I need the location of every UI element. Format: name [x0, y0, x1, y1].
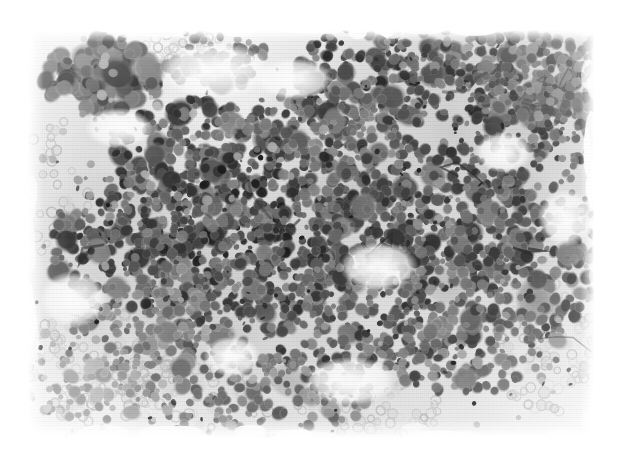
paper-margin-right	[594, 0, 623, 467]
micrograph-viewport: Cytology micrograph Grayscale photomicro…	[0, 0, 623, 467]
paper-margin-left	[0, 0, 28, 467]
paper-margin-top	[0, 0, 623, 30]
paper-margin-bottom	[0, 438, 623, 467]
micrograph-plate	[28, 30, 594, 438]
cell-field-canvas	[28, 30, 594, 438]
